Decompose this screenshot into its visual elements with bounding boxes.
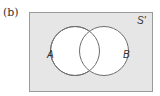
set-a-label: A — [46, 49, 54, 60]
venn-diagram: S' A B — [0, 0, 160, 96]
set-b-label: B — [123, 49, 130, 60]
set-b-circle — [80, 27, 129, 76]
universal-set-label: S' — [137, 15, 147, 26]
